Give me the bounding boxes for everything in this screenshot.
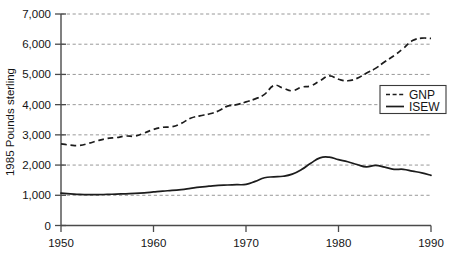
y-axis-title: 1985 Pounds sterling (4, 68, 16, 176)
y-tick-label: 6,000 (22, 38, 51, 50)
y-tick-label: 2,000 (22, 159, 51, 171)
x-tick-label: 1980 (326, 237, 352, 249)
chart-container: 01,0002,0003,0004,0005,0006,0007,000 195… (0, 0, 450, 263)
x-tick-label: 1990 (418, 237, 444, 249)
x-axis-group: 19501960197019801990 (48, 226, 444, 250)
gridlines-group (61, 14, 431, 195)
series-group (61, 38, 431, 195)
y-tick-label: 3,000 (22, 129, 51, 141)
y-tick-label: 7,000 (22, 8, 51, 20)
series-line-isew (61, 157, 431, 195)
line-chart-svg: 01,0002,0003,0004,0005,0006,0007,000 195… (0, 0, 450, 263)
y-tick-label: 0 (45, 220, 51, 232)
y-axis-group: 01,0002,0003,0004,0005,0006,0007,000 (22, 8, 66, 232)
x-tick-label: 1960 (141, 237, 167, 249)
x-tick-label: 1970 (233, 237, 259, 249)
y-tick-label: 5,000 (22, 68, 51, 80)
y-tick-label: 1,000 (22, 189, 51, 201)
x-tick-label: 1950 (48, 237, 74, 249)
legend-label-isew: ISEW (409, 100, 440, 114)
legend: GNP ISEW (380, 86, 446, 114)
y-tick-label: 4,000 (22, 99, 51, 111)
series-line-gnp (61, 38, 431, 146)
